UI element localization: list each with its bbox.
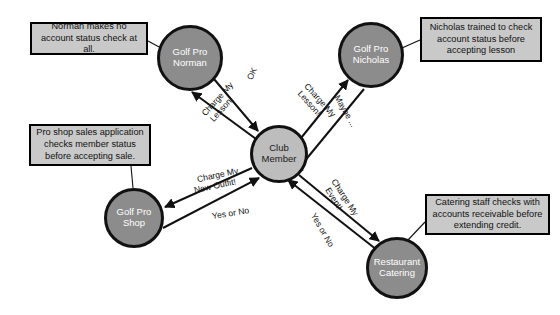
node-label-golf-pro-nicholas: Golf ProNicholas bbox=[351, 44, 391, 65]
note-restaurant: Catering staff checks with accounts rece… bbox=[425, 194, 550, 235]
node-club-member[interactable]: ClubMember bbox=[250, 125, 308, 183]
note-nicholas-text: Nicholas trained to check account status… bbox=[427, 22, 535, 57]
note-norman-text: Norman makes no account status check at … bbox=[37, 21, 141, 56]
leader-line-nicholas bbox=[402, 40, 420, 48]
node-label-club-member: ClubMember bbox=[260, 143, 299, 164]
edge-restaurant-to-club bbox=[288, 180, 377, 250]
leader-line-restaurant bbox=[408, 222, 425, 240]
diagram-canvas: Golf ProNorman Golf ProNicholas ClubMemb… bbox=[0, 0, 560, 315]
node-label-golf-pro-norman: Golf ProNorman bbox=[171, 47, 210, 68]
leader-line-shop bbox=[131, 166, 133, 188]
note-pro-shop-text: Pro shop sales application checks member… bbox=[36, 127, 144, 162]
note-norman: Norman makes no account status check at … bbox=[30, 22, 148, 55]
note-nicholas: Nicholas trained to check account status… bbox=[420, 17, 542, 62]
node-label-restaurant-catering: RestaurantCatering bbox=[372, 257, 422, 278]
note-pro-shop: Pro shop sales application checks member… bbox=[29, 124, 151, 166]
node-golf-pro-shop[interactable]: Golf ProShop bbox=[104, 188, 164, 248]
node-golf-pro-nicholas[interactable]: Golf ProNicholas bbox=[338, 22, 404, 88]
node-label-golf-pro-shop: Golf ProShop bbox=[115, 207, 154, 228]
edge-club-to-restaurant bbox=[299, 175, 379, 241]
node-restaurant-catering[interactable]: RestaurantCatering bbox=[366, 237, 428, 299]
edge-club-to-norman bbox=[192, 92, 256, 139]
note-restaurant-text: Catering staff checks with accounts rece… bbox=[432, 197, 543, 232]
node-golf-pro-norman[interactable]: Golf ProNorman bbox=[157, 25, 223, 91]
edge-club-to-nicholas bbox=[301, 80, 348, 138]
